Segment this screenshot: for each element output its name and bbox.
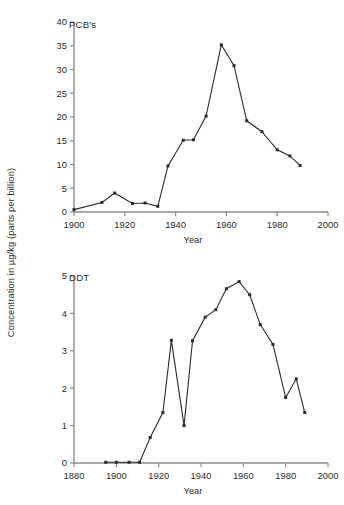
data-point-marker [284, 396, 287, 399]
data-point-marker [214, 308, 217, 311]
data-point-marker [113, 192, 116, 195]
y-tick-label: 4 [62, 308, 67, 319]
data-point-marker [104, 461, 107, 464]
chart-panel-pcb: 0510152025303540190019201940196019802000… [22, 6, 344, 254]
data-point-marker [149, 436, 152, 439]
x-tick-label: 2000 [318, 219, 339, 230]
data-point-marker [259, 323, 262, 326]
data-point-marker [73, 208, 76, 211]
data-point-marker [271, 343, 274, 346]
data-point-marker [205, 115, 208, 118]
data-point-marker [115, 461, 118, 464]
ddt-x-axis-title: Year [32, 486, 344, 496]
y-tick-label: 10 [57, 159, 67, 170]
y-tick-label: 15 [57, 135, 67, 146]
data-point-marker [191, 339, 194, 342]
x-tick-label: 1880 [64, 470, 85, 481]
data-point-marker [138, 461, 141, 464]
y-tick-label: 5 [62, 270, 67, 281]
data-series-line [74, 45, 300, 210]
pcb-series-label: PCB's [69, 19, 96, 30]
y-tick-label: 20 [57, 111, 67, 122]
pcb-x-axis-title: Year [32, 235, 344, 245]
data-point-marker [183, 424, 186, 427]
data-point-marker [170, 339, 173, 342]
data-point-marker [131, 202, 134, 205]
pcb-plot: 0510152025303540190019201940196019802000 [22, 6, 344, 254]
figure-container: Concentration in µg/kg (parts per billio… [0, 0, 344, 505]
x-tick-label: 1960 [233, 470, 254, 481]
x-tick-label: 1980 [275, 470, 296, 481]
y-axis-title: Concentration in µg/kg (parts per billio… [0, 0, 22, 505]
data-point-marker [220, 43, 223, 46]
x-tick-label: 1980 [267, 219, 288, 230]
y-tick-label: 1 [62, 420, 67, 431]
y-tick-label: 30 [57, 64, 67, 75]
x-tick-label: 1920 [114, 219, 135, 230]
x-tick-label: 1900 [106, 470, 127, 481]
data-point-marker [100, 201, 103, 204]
data-point-marker [299, 164, 302, 167]
data-point-marker [192, 138, 195, 141]
x-tick-label: 1940 [165, 219, 186, 230]
data-point-marker [288, 154, 291, 157]
data-point-marker [204, 316, 207, 319]
data-point-marker [303, 411, 306, 414]
y-tick-label: 0 [62, 206, 67, 217]
data-point-marker [166, 164, 169, 167]
x-tick-label: 1960 [216, 219, 237, 230]
data-point-marker [248, 293, 251, 296]
chart-panel-ddt: 0123451880190019201940196019802000 DDT Y… [22, 258, 344, 505]
data-point-marker [225, 287, 228, 290]
data-point-marker [276, 148, 279, 151]
data-point-marker [260, 130, 263, 133]
x-tick-label: 2000 [318, 470, 339, 481]
x-tick-label: 1940 [191, 470, 212, 481]
y-tick-label: 0 [62, 457, 67, 468]
data-point-marker [128, 461, 131, 464]
x-tick-label: 1900 [64, 219, 85, 230]
data-point-marker [144, 201, 147, 204]
y-tick-label: 3 [62, 345, 67, 356]
data-point-marker [295, 377, 298, 380]
ddt-series-label: DDT [69, 272, 89, 283]
data-point-marker [156, 205, 159, 208]
data-point-marker [245, 119, 248, 122]
y-tick-label: 35 [57, 40, 67, 51]
y-tick-label: 40 [57, 16, 67, 27]
data-point-marker [182, 139, 185, 142]
ddt-plot: 0123451880190019201940196019802000 [22, 258, 344, 505]
x-tick-label: 1920 [148, 470, 169, 481]
data-point-marker [161, 411, 164, 414]
data-point-marker [233, 64, 236, 67]
y-tick-label: 2 [62, 383, 67, 394]
y-tick-label: 5 [62, 183, 67, 194]
y-tick-label: 25 [57, 88, 67, 99]
data-series-line [106, 282, 305, 463]
data-point-marker [238, 280, 241, 283]
